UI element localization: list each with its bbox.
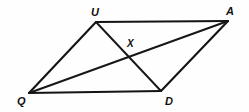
segment-a-d bbox=[161, 21, 228, 91]
geometry-figure: U A Q D X bbox=[0, 0, 249, 112]
segment-q-u bbox=[29, 22, 96, 93]
vertex-label-a: A bbox=[226, 6, 234, 17]
vertex-label-d: D bbox=[165, 96, 173, 107]
figure-canvas bbox=[0, 0, 249, 112]
vertex-label-u: U bbox=[91, 7, 99, 18]
segment-d-q bbox=[29, 91, 161, 93]
vertex-label-q: Q bbox=[17, 96, 26, 107]
intersection-label-x: X bbox=[127, 39, 134, 49]
segment-u-a bbox=[96, 21, 228, 22]
diagonal-u-d bbox=[96, 22, 161, 91]
